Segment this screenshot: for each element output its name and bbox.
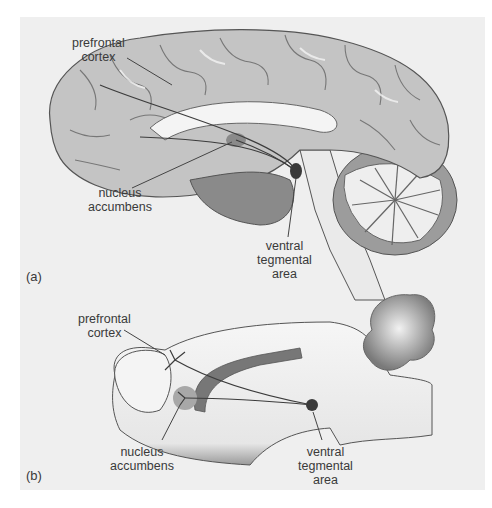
label-prefrontal-cortex-b: prefrontal cortex [78,312,131,340]
label-prefrontal-cortex-a: prefrontal cortex [72,36,125,64]
label-line: area [257,267,312,281]
label-nucleus-accumbens-b: nucleus accumbens [110,445,174,473]
human-brain [50,30,457,300]
label-line: nucleus [88,186,152,200]
label-line: nucleus [110,445,174,459]
temporal-region [190,172,294,225]
label-line: ventral [298,445,353,459]
label-line: tegmental [257,253,312,267]
label-line: accumbens [88,200,152,214]
rat-cerebellum [363,295,434,370]
panel-label-b: (b) [26,468,42,483]
label-line: prefrontal [72,36,125,50]
label-line: accumbens [110,459,174,473]
rat-brain [113,295,435,465]
label-vta-b: ventral tegmental area [298,445,353,487]
label-nucleus-accumbens-a: nucleus accumbens [88,186,152,214]
label-line: prefrontal [78,312,131,326]
label-line: cortex [78,326,131,340]
label-line: ventral [257,239,312,253]
brain-diagram [0,0,492,508]
label-vta-a: ventral tegmental area [257,239,312,281]
panel-label-a: (a) [26,269,42,284]
label-line: cortex [72,50,125,64]
label-line: area [298,473,353,487]
label-line: tegmental [298,459,353,473]
